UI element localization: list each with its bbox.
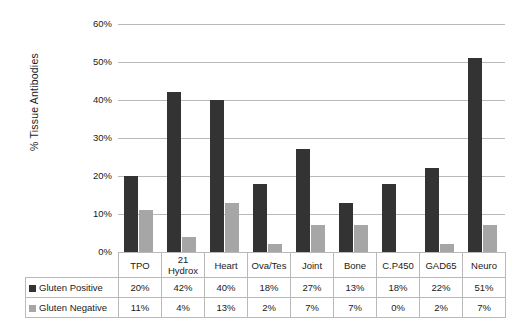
bar-group — [419, 24, 462, 252]
bar-chart: % Tissue Antibodies 60%50%40%30%20%10%0%… — [0, 0, 521, 330]
legend-label: Gluten Positive — [39, 282, 103, 293]
table-value-cell: 42% — [162, 278, 205, 298]
legend-entry: Gluten Negative — [26, 298, 119, 318]
table-value-cell: 4% — [162, 298, 205, 318]
table-value-cell: 13% — [205, 298, 248, 318]
category-header-cell: Ova/Tes — [248, 253, 291, 278]
legend-entry: Gluten Positive — [26, 278, 119, 298]
bar-group — [118, 24, 161, 252]
category-header-cell: Heart — [205, 253, 248, 278]
bar — [139, 210, 153, 252]
bar-group — [161, 24, 204, 252]
y-axis-tick-label: 60% — [80, 19, 112, 29]
table-corner-cell — [26, 253, 119, 278]
table-value-cell: 13% — [334, 278, 377, 298]
category-header-cell: C.P450 — [377, 253, 420, 278]
bar — [182, 237, 196, 252]
table-value-cell: 27% — [291, 278, 334, 298]
table-value-cell: 18% — [248, 278, 291, 298]
y-axis-tick-label: 20% — [80, 171, 112, 181]
bar — [440, 244, 454, 252]
bar-group — [333, 24, 376, 252]
bar — [311, 225, 325, 252]
data-table-body: TPO21HydroxHeartOva/TesJointBoneC.P450GA… — [26, 253, 506, 318]
bar — [354, 225, 368, 252]
bar-group — [247, 24, 290, 252]
bar — [339, 203, 353, 252]
y-axis-tick-labels: 60%50%40%30%20%10%0% — [80, 18, 112, 258]
plot-area — [118, 24, 505, 252]
legend-label: Gluten Negative — [39, 302, 107, 313]
bar — [468, 58, 482, 252]
category-header-cell: Bone — [334, 253, 377, 278]
table-value-cell: 7% — [291, 298, 334, 318]
bar — [210, 100, 224, 252]
table-header-row: TPO21HydroxHeartOva/TesJointBoneC.P450GA… — [26, 253, 506, 278]
table-value-cell: 7% — [463, 298, 506, 318]
bar — [253, 184, 267, 252]
bar — [167, 92, 181, 252]
table-value-cell: 7% — [334, 298, 377, 318]
bar — [124, 176, 138, 252]
y-axis-tick-label: 10% — [80, 209, 112, 219]
table-row: Gluten Negative11%4%13%2%7%7%0%2%7% — [26, 298, 506, 318]
bar-group — [462, 24, 505, 252]
legend-swatch-icon — [29, 305, 36, 312]
table-value-cell: 20% — [119, 278, 162, 298]
category-header-cell: 21Hydrox — [162, 253, 205, 278]
y-axis-tick-label: 30% — [80, 133, 112, 143]
bar — [425, 168, 439, 252]
bar-group — [376, 24, 419, 252]
bar-group — [290, 24, 333, 252]
table-value-cell: 40% — [205, 278, 248, 298]
table-value-cell: 51% — [463, 278, 506, 298]
table-value-cell: 22% — [420, 278, 463, 298]
category-header-cell: Joint — [291, 253, 334, 278]
bar-groups — [118, 24, 505, 252]
table-value-cell: 11% — [119, 298, 162, 318]
category-header-cell: GAD65 — [420, 253, 463, 278]
bar — [225, 203, 239, 252]
category-header-cell: TPO — [119, 253, 162, 278]
table-value-cell: 2% — [248, 298, 291, 318]
bar-group — [204, 24, 247, 252]
data-table: TPO21HydroxHeartOva/TesJointBoneC.P450GA… — [25, 252, 506, 318]
bar — [483, 225, 497, 252]
bar — [382, 184, 396, 252]
table-value-cell: 2% — [420, 298, 463, 318]
bar — [268, 244, 282, 252]
table-value-cell: 0% — [377, 298, 420, 318]
category-header-cell: Neuro — [463, 253, 506, 278]
y-axis-tick-label: 40% — [80, 95, 112, 105]
table-row: Gluten Positive20%42%40%18%27%13%18%22%5… — [26, 278, 506, 298]
table-value-cell: 18% — [377, 278, 420, 298]
bar — [296, 149, 310, 252]
y-axis-tick-label: 50% — [80, 57, 112, 67]
y-axis-title: % Tissue Antibodies — [28, 22, 40, 182]
legend-swatch-icon — [29, 285, 36, 292]
